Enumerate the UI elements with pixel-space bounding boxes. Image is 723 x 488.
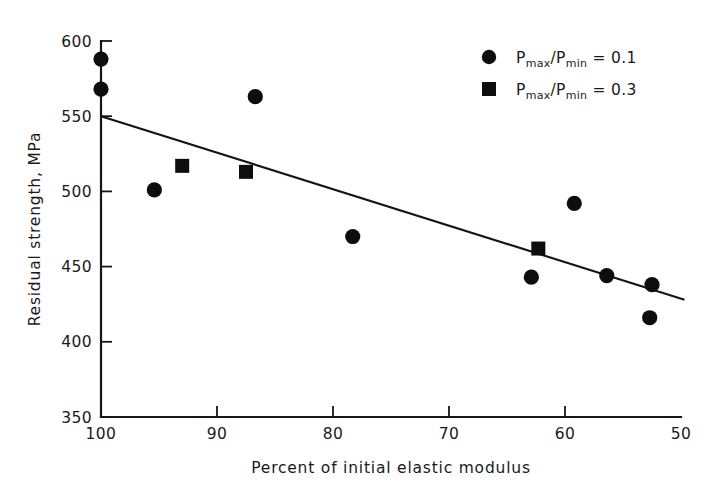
x-tick-label-100: 100	[86, 425, 117, 443]
y-tick-label-350: 350	[61, 409, 92, 427]
trend-line-group	[101, 116, 684, 299]
y-axis-tick-labels: 350400450500550600	[61, 33, 92, 427]
x-tick-label-70: 70	[439, 425, 460, 443]
y-axis-title: Residual strength, MPa	[26, 132, 44, 327]
x-axis-tick-labels: 1009080706050	[86, 425, 692, 443]
legend-1-sub-min: min	[566, 89, 588, 102]
legend: Pmax/Pmin = 0.1 Pmax/Pmin = 0.3	[482, 49, 637, 102]
legend-0-value: = 0.1	[587, 49, 636, 67]
legend-1-p-max: P	[516, 81, 526, 99]
legend-0-slash: /P	[551, 49, 566, 67]
legend-0-p-max: P	[516, 49, 526, 67]
scatter-plot-svg: 350400450500550600 1009080706050 Residua…	[0, 0, 723, 488]
legend-0-sub-max: max	[526, 57, 551, 70]
x-tick-label-50: 50	[671, 425, 692, 443]
x-tick-label-90: 90	[207, 425, 228, 443]
legend-marker-square	[482, 82, 496, 96]
legend-entry-0: Pmax/Pmin = 0.1	[516, 49, 637, 70]
legend-1-slash: /P	[551, 81, 566, 99]
data-point-s0-8	[644, 277, 659, 292]
legend-entry-1: Pmax/Pmin = 0.3	[516, 81, 637, 102]
data-point-s1-2	[531, 242, 545, 256]
data-point-s1-0	[175, 159, 189, 173]
data-point-s0-1	[93, 82, 108, 97]
data-point-s0-3	[248, 89, 263, 104]
data-point-s0-0	[93, 51, 108, 66]
data-point-s0-5	[524, 270, 539, 285]
y-tick-label-450: 450	[61, 258, 92, 276]
x-tick-label-60: 60	[555, 425, 576, 443]
x-axis-ticks	[217, 406, 565, 417]
legend-marker-circle	[482, 50, 496, 64]
data-point-s0-2	[147, 182, 162, 197]
legend-1-sub-max: max	[526, 89, 551, 102]
x-axis-title: Percent of initial elastic modulus	[251, 459, 531, 477]
data-point-s0-4	[345, 229, 360, 244]
y-tick-label-600: 600	[61, 33, 92, 51]
data-point-s0-6	[567, 196, 582, 211]
y-tick-label-400: 400	[61, 333, 92, 351]
data-point-s0-9	[642, 310, 657, 325]
y-tick-label-500: 500	[61, 183, 92, 201]
data-point-s0-7	[599, 268, 614, 283]
x-tick-label-80: 80	[323, 425, 344, 443]
data-point-s1-1	[239, 165, 253, 179]
legend-0-sub-min: min	[566, 57, 588, 70]
trend-line	[101, 116, 684, 299]
y-tick-label-550: 550	[61, 108, 92, 126]
legend-1-value: = 0.3	[587, 81, 636, 99]
chart-figure: 350400450500550600 1009080706050 Residua…	[0, 0, 723, 488]
